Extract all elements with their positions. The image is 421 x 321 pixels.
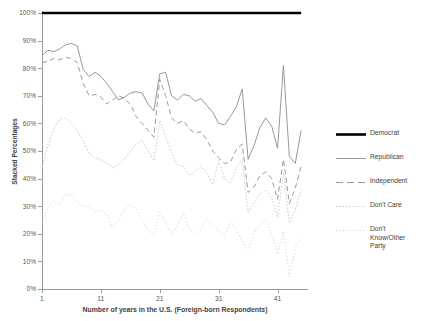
x-axis-title: Number of years in the U.S. (Foreign-bor… — [42, 306, 308, 313]
legend-swatch-icon — [336, 204, 366, 208]
y-tick-label: 60% — [2, 120, 36, 127]
legend-label: Don't Care — [370, 201, 421, 210]
y-tick-label: 80% — [2, 65, 36, 72]
y-axis-title: Stacked Percentages — [11, 82, 18, 222]
y-tick-label: 70% — [2, 92, 36, 99]
legend-label: Democrat — [370, 129, 421, 138]
legend-swatch-icon — [336, 156, 366, 160]
chart-legend: DemocratRepublicanIndependentDon't CareD… — [336, 129, 421, 263]
x-tick-mark — [278, 289, 279, 293]
x-tick-mark — [42, 289, 43, 293]
y-axis-tick-labels: 0%10%20%30%40%50%60%70%80%90%100% — [0, 0, 36, 321]
x-tick-label: 21 — [150, 295, 170, 303]
series-line-don-t-care — [42, 118, 301, 223]
legend-item[interactable]: Independent — [336, 177, 421, 189]
y-tick-label: 40% — [2, 175, 36, 182]
legend-swatch-icon — [336, 132, 366, 136]
x-tick-mark — [101, 289, 102, 293]
legend-label: Independent — [370, 177, 421, 186]
plot-area — [42, 13, 307, 289]
legend-swatch-icon — [336, 228, 366, 232]
legend-item[interactable]: Democrat — [336, 129, 421, 141]
y-tick-label: 50% — [2, 147, 36, 154]
series-lines — [42, 13, 307, 289]
legend-item[interactable]: Republican — [336, 153, 421, 165]
legend-label: Republican — [370, 153, 421, 162]
y-tick-label: 90% — [2, 37, 36, 44]
chart-figure: 0%10%20%30%40%50%60%70%80%90%100% 111213… — [0, 0, 421, 321]
legend-item[interactable]: Don't Know/Other Party — [336, 225, 421, 251]
x-tick-label: 1 — [32, 295, 52, 303]
x-axis-line — [42, 289, 308, 290]
x-tick-mark — [219, 289, 220, 293]
y-tick-label: 20% — [2, 230, 36, 237]
y-tick-label: 30% — [2, 203, 36, 210]
legend-item[interactable]: Don't Care — [336, 201, 421, 213]
y-tick-label: 10% — [2, 258, 36, 265]
x-tick-label: 31 — [209, 295, 229, 303]
legend-label: Don't Know/Other Party — [370, 225, 421, 251]
x-tick-label: 41 — [268, 295, 288, 303]
series-line-republican — [42, 43, 301, 163]
legend-swatch-icon — [336, 180, 366, 184]
series-line-independent — [42, 57, 301, 203]
y-tick-label: 100% — [2, 9, 36, 16]
series-line-don-t-know-other-party — [42, 194, 301, 277]
x-tick-label: 11 — [91, 295, 111, 303]
x-tick-mark — [160, 289, 161, 293]
y-tick-label: 0% — [2, 285, 36, 292]
